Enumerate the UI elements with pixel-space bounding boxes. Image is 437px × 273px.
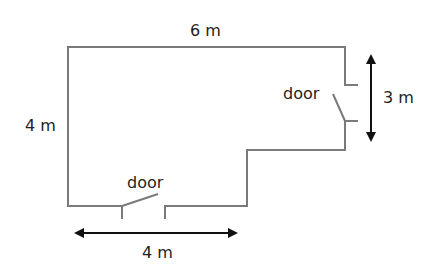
bottom-door-label: door bbox=[127, 173, 163, 192]
top-width-label: 6 m bbox=[190, 21, 221, 40]
bottom-width-label: 4 m bbox=[142, 243, 173, 262]
walls bbox=[68, 47, 358, 219]
right-height-label: 3 m bbox=[383, 88, 414, 107]
wall-outline-lower bbox=[165, 121, 358, 219]
wall-outline-upper bbox=[68, 47, 358, 206]
right-door-label: door bbox=[283, 84, 319, 103]
bottom-door-leaf bbox=[122, 194, 158, 206]
floor-plan bbox=[0, 0, 437, 273]
right-door-leaf bbox=[333, 94, 345, 121]
left-height-label: 4 m bbox=[25, 116, 56, 135]
